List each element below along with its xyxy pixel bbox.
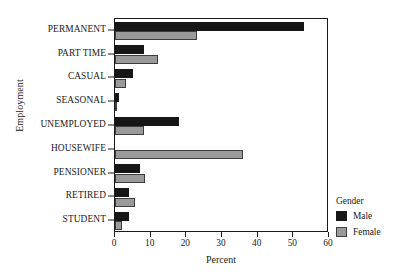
bar-retired-female	[115, 198, 135, 207]
y-axis-tick-mark	[108, 77, 114, 78]
legend-label-female: Female	[353, 227, 381, 237]
y-axis-tick-mark	[108, 29, 114, 30]
bar-student-female	[115, 221, 122, 230]
x-axis-tick-mark	[185, 232, 186, 237]
x-axis-tick-label-10: 10	[145, 238, 154, 248]
bar-permanent-female	[115, 31, 197, 40]
y-axis-tick-mark	[108, 196, 114, 197]
bar-pensioner-female	[115, 174, 145, 183]
bar-casual-female	[115, 79, 126, 88]
y-axis-tick-mark	[108, 125, 114, 126]
x-axis-tick-label-50: 50	[288, 238, 297, 248]
y-axis-label-unemployed: UNEMPLOYED	[18, 120, 106, 129]
legend-item-female: Female	[336, 227, 406, 237]
bar-casual-male	[115, 69, 133, 78]
x-axis-tick-label-40: 40	[252, 238, 261, 248]
bar-housewife-female	[115, 150, 243, 159]
y-axis-label-seasonal: SEASONAL	[18, 97, 106, 106]
y-axis-tick-mark	[108, 220, 114, 221]
y-axis-tick-mark	[108, 101, 114, 102]
x-axis-tick-mark	[328, 232, 329, 237]
x-axis-tick-mark	[257, 232, 258, 237]
y-axis-tick-mark	[108, 53, 114, 54]
y-axis-label-part-time: PART TIME	[18, 49, 106, 58]
legend-item-male: Male	[336, 211, 406, 221]
y-axis-label-housewife: HOUSEWIFE	[18, 144, 106, 153]
y-axis-label-pensioner: PENSIONER	[18, 168, 106, 177]
x-axis-title: Percent	[114, 254, 328, 265]
x-axis-tick-mark	[292, 232, 293, 237]
x-axis-ticks: 0102030405060	[114, 232, 328, 238]
x-axis-tick-mark	[114, 232, 115, 237]
x-axis-tick-mark	[221, 232, 222, 237]
plot-area	[114, 18, 328, 232]
bar-student-male	[115, 212, 129, 221]
y-axis-label-student: STUDENT	[18, 215, 106, 224]
bar-seasonal-female	[115, 102, 117, 111]
y-axis-label-permanent: PERMANENT	[18, 25, 106, 34]
x-axis-tick-mark	[150, 232, 151, 237]
legend-swatch-male-icon	[336, 211, 347, 221]
x-axis-tick-label-0: 0	[112, 238, 117, 248]
bar-retired-male	[115, 188, 129, 197]
legend-label-male: Male	[353, 211, 372, 221]
bar-seasonal-male	[115, 93, 119, 102]
bar-permanent-male	[115, 22, 304, 31]
bar-unemployed-male	[115, 117, 179, 126]
x-axis-tick-label-20: 20	[181, 238, 190, 248]
legend-swatch-female-icon	[336, 227, 347, 237]
y-axis-label-casual: CASUAL	[18, 73, 106, 82]
y-axis-tick-mark	[108, 172, 114, 173]
x-axis-tick-label-60: 60	[323, 238, 332, 248]
x-axis-tick-label-30: 30	[216, 238, 225, 248]
bar-part-time-male	[115, 45, 144, 54]
bar-part-time-female	[115, 55, 158, 64]
bar-unemployed-female	[115, 126, 144, 135]
legend: Gender Male Female	[336, 196, 406, 243]
bar-chart: Employment PERMANENTPART TIMECASUALSEASO…	[0, 0, 406, 279]
legend-title: Gender	[336, 196, 406, 206]
y-axis-tick-mark	[108, 148, 114, 149]
bars-container	[115, 19, 327, 231]
y-axis-label-retired: RETIRED	[18, 192, 106, 201]
bar-pensioner-male	[115, 164, 140, 173]
y-axis-category-labels: PERMANENTPART TIMECASUALSEASONALUNEMPLOY…	[18, 18, 106, 232]
